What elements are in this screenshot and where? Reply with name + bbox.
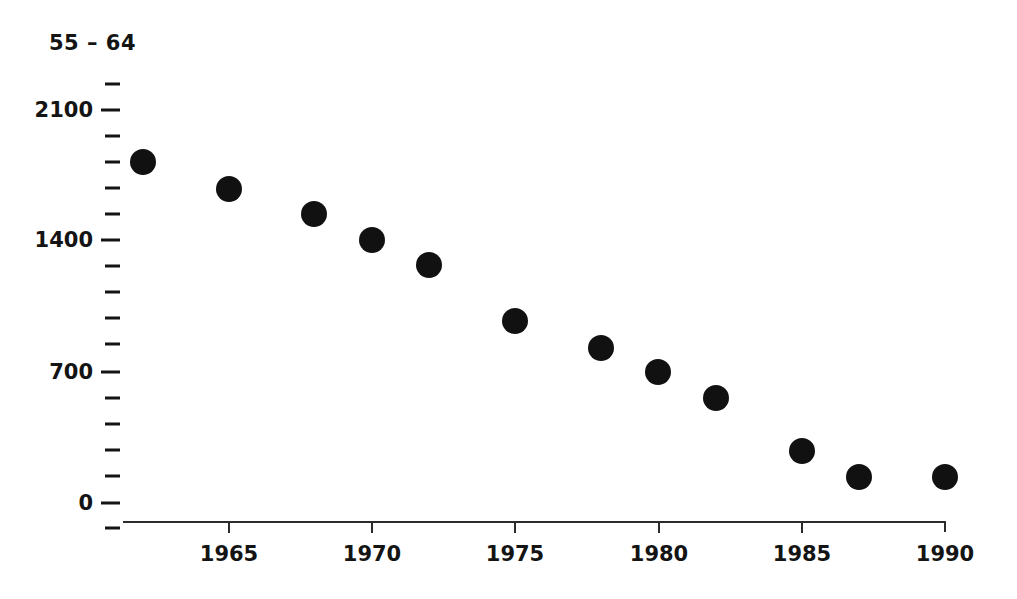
data-points-layer xyxy=(0,0,1017,599)
data-point xyxy=(846,464,872,490)
data-point xyxy=(703,385,729,411)
data-point xyxy=(216,176,242,202)
data-point xyxy=(932,464,958,490)
plot-area: 2100 1400 700 0 1965 1970 1975 1980 1985… xyxy=(0,0,1017,599)
data-point xyxy=(416,252,442,278)
data-point xyxy=(645,359,671,385)
data-point xyxy=(359,227,385,253)
data-point xyxy=(130,149,156,175)
data-point xyxy=(588,335,614,361)
data-point xyxy=(502,308,528,334)
scatter-chart: 55 – 64 2100 1400 700 0 xyxy=(0,0,1017,599)
data-point xyxy=(301,201,327,227)
data-point xyxy=(789,438,815,464)
